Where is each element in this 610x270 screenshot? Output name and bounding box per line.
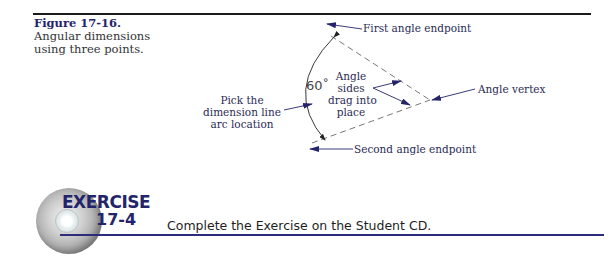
exercise-title: EXERCISE (62, 192, 150, 212)
pick-line-3: arc location (200, 118, 284, 130)
leader-sides-lower (373, 88, 410, 105)
label-vertex: Angle vertex (478, 83, 546, 95)
leader-sides-upper (373, 81, 401, 88)
exercise-number: 17-4 (96, 210, 136, 229)
label-pick-arc: Pick the dimension line arc location (200, 94, 284, 130)
label-first-endpoint: First angle endpoint (363, 22, 471, 34)
sides-line-3: drag into (328, 94, 374, 106)
pick-line-2: dimension line (200, 106, 284, 118)
label-second-endpoint: Second angle endpoint (354, 143, 476, 155)
exercise-rule (60, 234, 604, 236)
cd-hub-icon (55, 209, 79, 233)
pick-line-1: Pick the (200, 94, 284, 106)
sides-line-4: place (328, 106, 374, 118)
sides-line-1: Angle (328, 70, 374, 82)
angle-value: 60˚ (306, 78, 329, 93)
leader-first-endpoint (327, 24, 362, 29)
sides-line-2: sides (328, 82, 374, 94)
label-angle-sides: Angle sides drag into place (328, 70, 374, 118)
exercise-instruction: Complete the Exercise on the Student CD. (167, 218, 431, 233)
leader-vertex (432, 89, 475, 100)
exercise-callout: EXERCISE 17-4 Complete the Exercise on t… (36, 188, 596, 258)
